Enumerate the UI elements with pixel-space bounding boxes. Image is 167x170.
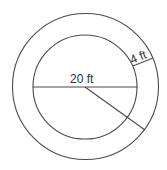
ring-width-label: 4 ft [128,47,149,66]
inner-diameter-label: 20 ft [70,72,94,86]
ring-diagram: 20 ft 4 ft [0,0,167,170]
outer-radius-line [85,87,145,130]
